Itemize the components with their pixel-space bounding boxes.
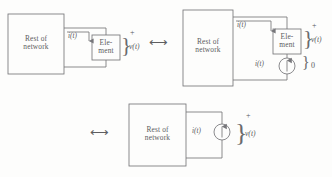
voltage-label-right: v(t) xyxy=(311,36,322,44)
element-line2-right: ment xyxy=(273,41,301,49)
equivalence-arrow-top: ⟷ xyxy=(149,36,168,50)
circuit-diagram-svg xyxy=(0,0,332,177)
rest-of-network-label-left: Rest of network xyxy=(8,35,64,51)
voltage-label-bottom: v(t) xyxy=(245,130,256,138)
polarity-plus-left: + xyxy=(130,29,135,37)
polarity-plus-right: + xyxy=(312,22,317,30)
source-current-label-right: i(t) xyxy=(255,61,264,69)
element-label-right: Ele- ment xyxy=(273,33,301,49)
rest-of-network-line2-left: network xyxy=(8,43,64,51)
zero-brace-right: } xyxy=(302,55,310,72)
equivalence-arrow-bottom: ⟷ xyxy=(90,126,109,140)
rest-of-network-label-bottom: Rest of network xyxy=(129,126,186,142)
rest-of-network-label-right: Rest of network xyxy=(183,38,233,54)
zero-label-right: 0 xyxy=(311,62,315,70)
polarity-plus-bottom: + xyxy=(246,112,251,120)
rest-of-network-line2-right: network xyxy=(183,46,233,54)
voltage-label-left: v(t) xyxy=(129,43,140,51)
element-label-left: Ele- ment xyxy=(92,39,120,55)
element-line2-left: ment xyxy=(92,47,120,55)
figure-canvas: Rest of network Ele- ment i(t) } v(t) + … xyxy=(0,0,332,177)
source-current-label-bottom: i(t) xyxy=(192,128,201,136)
current-label-left: i(t) xyxy=(68,33,77,41)
current-label-right: i(t) xyxy=(237,22,246,30)
rest-of-network-line2-bottom: network xyxy=(129,134,186,142)
